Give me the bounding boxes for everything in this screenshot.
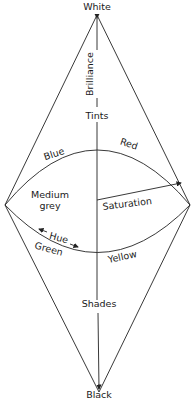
label-shades: Shades xyxy=(82,298,117,309)
color-solid-diagram: White Black Brilliance Tints Shades Medi… xyxy=(0,0,195,399)
label-yellow: Yellow xyxy=(106,248,138,265)
cone-outline xyxy=(5,15,190,392)
brilliance-axis xyxy=(97,18,99,389)
label-white: White xyxy=(83,1,111,12)
label-red: Red xyxy=(119,136,140,152)
hue-circle xyxy=(5,150,190,253)
label-medium: Medium xyxy=(31,189,69,200)
label-tints: Tints xyxy=(85,110,109,121)
label-brilliance: Brilliance xyxy=(84,52,95,96)
label-grey: grey xyxy=(39,200,61,211)
label-black: Black xyxy=(86,389,112,399)
label-blue: Blue xyxy=(42,145,66,162)
